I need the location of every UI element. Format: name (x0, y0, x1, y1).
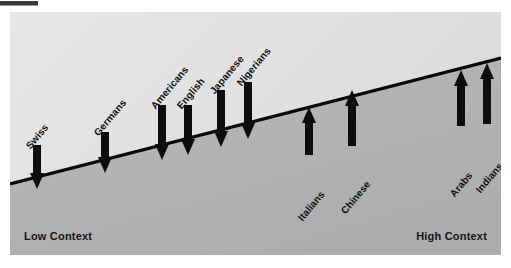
diagram-svg (10, 12, 501, 255)
low-context-label: Low Context (24, 230, 92, 242)
figure-canvas: SwissGermansAmericansEnglishJapaneseNige… (0, 0, 511, 268)
scan-artifact-bar (0, 1, 38, 6)
context-scale-diagram: SwissGermansAmericansEnglishJapaneseNige… (10, 12, 501, 255)
high-context-label: High Context (416, 230, 487, 242)
